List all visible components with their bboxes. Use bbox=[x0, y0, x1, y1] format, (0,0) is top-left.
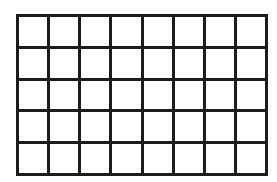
grid-cell-r5c8[interactable] bbox=[237, 144, 265, 173]
grid-cell-r4c6[interactable] bbox=[175, 112, 203, 141]
grid-cell-r1c2[interactable] bbox=[50, 17, 78, 46]
grid-cell-r5c5[interactable] bbox=[144, 144, 172, 173]
grid-cell-r3c3[interactable] bbox=[81, 81, 109, 110]
grid-cell-r5c6[interactable] bbox=[175, 144, 203, 173]
grid-cell-r5c7[interactable] bbox=[206, 144, 234, 173]
grid-cell-r3c6[interactable] bbox=[175, 81, 203, 110]
grid-cell-r5c3[interactable] bbox=[81, 144, 109, 173]
grid-cell-r4c5[interactable] bbox=[144, 112, 172, 141]
grid-cell-r2c5[interactable] bbox=[144, 49, 172, 78]
grid-cell-r1c7[interactable] bbox=[206, 17, 234, 46]
grid-cell-r5c2[interactable] bbox=[50, 144, 78, 173]
grid-cell-r3c5[interactable] bbox=[144, 81, 172, 110]
grid-cell-r1c4[interactable] bbox=[112, 17, 140, 46]
grid-cell-r4c8[interactable] bbox=[237, 112, 265, 141]
grid-cell-r1c1[interactable] bbox=[19, 17, 47, 46]
grid-cell-r2c8[interactable] bbox=[237, 49, 265, 78]
grid-cell-r3c4[interactable] bbox=[112, 81, 140, 110]
grid-cell-r4c1[interactable] bbox=[19, 112, 47, 141]
grid-cell-r2c4[interactable] bbox=[112, 49, 140, 78]
grid-cell-r2c1[interactable] bbox=[19, 49, 47, 78]
grid-cell-r2c3[interactable] bbox=[81, 49, 109, 78]
figure-canvas bbox=[0, 0, 277, 182]
grid-cell-r1c6[interactable] bbox=[175, 17, 203, 46]
grid-cell-r4c3[interactable] bbox=[81, 112, 109, 141]
grid-cell-r2c2[interactable] bbox=[50, 49, 78, 78]
rectangular-grid bbox=[16, 14, 268, 176]
grid-cell-r4c2[interactable] bbox=[50, 112, 78, 141]
grid-cell-r2c6[interactable] bbox=[175, 49, 203, 78]
grid-cell-r1c8[interactable] bbox=[237, 17, 265, 46]
grid-cell-r3c2[interactable] bbox=[50, 81, 78, 110]
grid-cell-r4c7[interactable] bbox=[206, 112, 234, 141]
grid-cell-r5c1[interactable] bbox=[19, 144, 47, 173]
grid-cell-r3c8[interactable] bbox=[237, 81, 265, 110]
grid-cell-r3c1[interactable] bbox=[19, 81, 47, 110]
grid-cell-r3c7[interactable] bbox=[206, 81, 234, 110]
grid-cell-r4c4[interactable] bbox=[112, 112, 140, 141]
grid-cell-r1c3[interactable] bbox=[81, 17, 109, 46]
grid-cell-r1c5[interactable] bbox=[144, 17, 172, 46]
grid-cell-r5c4[interactable] bbox=[112, 144, 140, 173]
grid-cell-r2c7[interactable] bbox=[206, 49, 234, 78]
